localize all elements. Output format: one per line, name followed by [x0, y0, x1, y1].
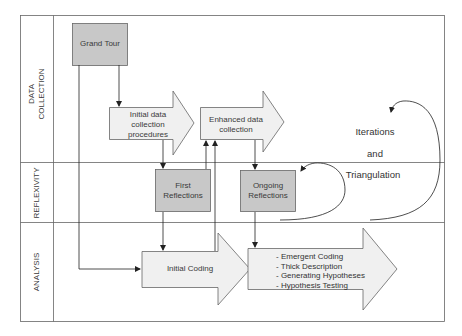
label-line: collection [205, 125, 267, 135]
label-line: procedures [118, 130, 178, 140]
enhanced-data-label: Enhanced data collection [205, 115, 267, 135]
row-label-data-collection: DATA COLLECTION [27, 54, 47, 134]
row-label-analysis: ANALYSIS [32, 232, 42, 312]
triangulation-label: Triangulation [330, 169, 416, 180]
initial-data-label: Initial data collection procedures [118, 110, 178, 140]
row-label-reflexivity: REFLEXIVITY [32, 153, 42, 233]
label-line: Reflections [155, 191, 211, 201]
row-label-line: DATA [27, 54, 37, 134]
label-line: Initial data [118, 110, 178, 120]
process-diagram [0, 0, 462, 336]
analysis-item: - Hypothesis Testing [276, 281, 365, 291]
row-label-line: COLLECTION [37, 54, 47, 134]
ongoing-reflections-label: Ongoing Reflections [240, 181, 296, 201]
analysis-items-list: - Emergent Coding - Thick Description - … [276, 252, 365, 290]
analysis-item: - Generating Hypotheses [276, 271, 365, 281]
iteration-loop [370, 101, 440, 220]
analysis-item: - Emergent Coding [276, 252, 365, 262]
label-line: collection [118, 120, 178, 130]
label-line: First [155, 181, 211, 191]
grand-tour-label: Grand Tour [72, 39, 128, 49]
label-line: Reflections [240, 191, 296, 201]
initial-coding-label: Initial Coding [150, 264, 230, 274]
analysis-item: - Thick Description [276, 262, 365, 272]
iterations-label: Iterations [340, 126, 410, 137]
label-line: Ongoing [240, 181, 296, 191]
connector-grandtour-coding [79, 65, 140, 269]
label-line: Enhanced data [205, 115, 267, 125]
first-reflections-label: First Reflections [155, 181, 211, 201]
and-label: and [340, 148, 410, 159]
